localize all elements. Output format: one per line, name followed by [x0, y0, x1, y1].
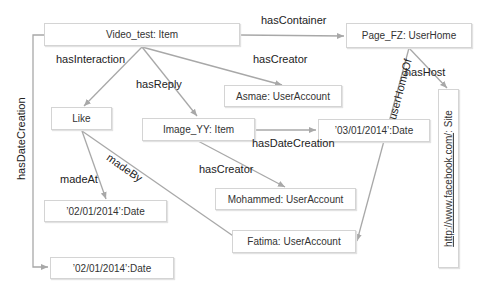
node-label: ’02/01/2014’:Date	[66, 206, 144, 217]
node-asmae: Asmae: UserAccount	[224, 85, 342, 107]
label-hasReply: hasReply	[136, 79, 182, 90]
label-hasContainer: hasContainer	[261, 15, 326, 26]
node-site: http://www.facebook.com/: Site	[438, 89, 459, 268]
label-hasInteraction: hasInteraction	[56, 54, 125, 65]
node-label: Like	[72, 113, 90, 124]
label-hasCreator-video: hasCreator	[253, 54, 307, 65]
label-hasDateCreation-video: hasDateCreation	[16, 97, 27, 180]
node-image-yy: Image_YY: Item	[142, 118, 255, 141]
node-date-0201-a: ’02/01/2014’:Date	[44, 200, 167, 222]
node-date-0201-b: ’02/01/2014’:Date	[50, 257, 174, 279]
node-date-0301: ’03/01/2014’:Date	[318, 119, 430, 142]
label-madeAt: madeAt	[60, 174, 98, 185]
label-hasHost: hasHost	[405, 67, 445, 78]
label-hasCreator-image: hasCreator	[199, 164, 253, 175]
node-fatima: Fatima: UserAccount	[232, 230, 356, 253]
node-label: Image_YY: Item	[163, 124, 234, 135]
node-page-fz: Page_FZ: UserHome	[346, 23, 472, 48]
site-url-link[interactable]: http://www.facebook.com/	[443, 133, 454, 247]
label-hasDateCreation-image: hasDateCreation	[252, 138, 335, 149]
node-label: Video_test: Item	[106, 29, 178, 40]
node-label: ’03/01/2014’:Date	[335, 125, 413, 136]
node-label: Asmae: UserAccount	[236, 91, 330, 102]
site-type: : Site	[443, 110, 454, 133]
node-label: http://www.facebook.com/: Site	[443, 110, 454, 247]
edge-madeBy	[82, 131, 239, 240]
node-label: Mohammed: UserAccount	[228, 194, 344, 205]
node-label: ’02/01/2014’:Date	[73, 263, 151, 274]
node-label: Page_FZ: UserHome	[362, 30, 456, 41]
edge-hasDateCreation-video	[33, 35, 48, 267]
edge-madeAt	[82, 131, 106, 199]
node-label: Fatima: UserAccount	[247, 236, 340, 247]
edge-hasContainer	[240, 35, 344, 36]
node-like: Like	[51, 107, 112, 130]
node-video-test: Video_test: Item	[44, 23, 240, 46]
node-mohammed: Mohammed: UserAccount	[215, 188, 356, 210]
